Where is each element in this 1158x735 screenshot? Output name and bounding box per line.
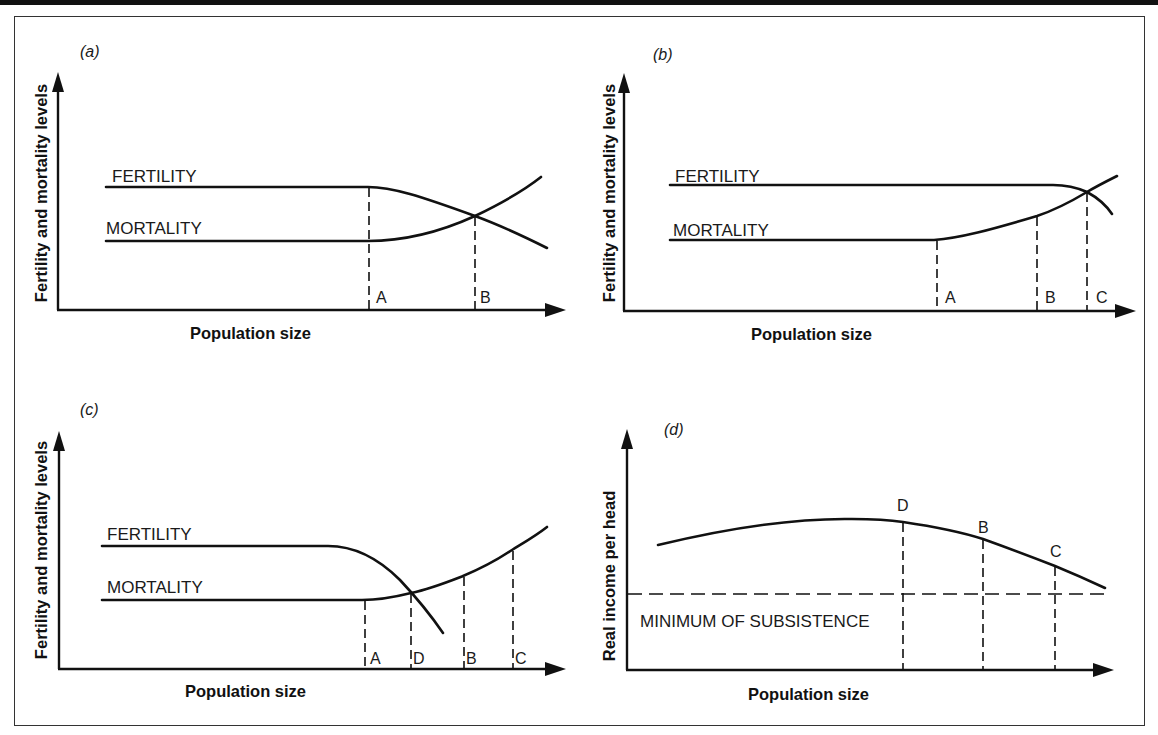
x-axis-label: Population size: [751, 325, 872, 343]
y-axis-label: Fertility and mortality levels: [32, 84, 50, 302]
x-axis-arrow-icon: [545, 303, 566, 317]
fertility-label: FERTILITY: [107, 525, 192, 544]
x-axis-arrow-icon: [1115, 304, 1136, 318]
x-axis-label: Population size: [185, 682, 306, 700]
y-axis-arrow-icon: [53, 431, 65, 451]
panel-tag: (b): [653, 46, 673, 63]
population-theory-figure: (a) Fertility and mortality levels Popul…: [0, 0, 1158, 735]
panel-c: (c) Fertility and mortality levels Popul…: [32, 401, 566, 700]
x-axis-label: Population size: [748, 685, 869, 703]
panel-b: (b) Fertility and mortality levels Popul…: [600, 46, 1136, 343]
y-axis-label: Fertility and mortality levels: [32, 441, 50, 659]
fertility-curve: [106, 187, 547, 248]
y-axis-label: Fertility and mortality levels: [600, 84, 618, 302]
x-axis-arrow-icon: [1093, 663, 1114, 677]
mortality-label: MORTALITY: [673, 221, 769, 240]
marker-label-c: C: [515, 650, 527, 667]
marker-label-d: D: [897, 497, 909, 514]
marker-label-d: D: [413, 650, 425, 667]
real-income-curve: [658, 519, 1105, 588]
y-axis-arrow-icon: [618, 73, 630, 93]
panel-d: (d) Real income per head Population size…: [600, 421, 1114, 703]
fertility-label: FERTILITY: [675, 167, 760, 186]
mortality-label: MORTALITY: [107, 578, 203, 597]
fertility-curve: [670, 185, 1112, 214]
panel-tag: (c): [80, 401, 99, 418]
x-axis-label: Population size: [190, 324, 311, 342]
marker-label-c: C: [1050, 543, 1062, 560]
mortality-label: MORTALITY: [106, 219, 202, 238]
marker-label-c: C: [1096, 289, 1108, 306]
marker-label-b: B: [1045, 289, 1056, 306]
subsistence-label: MINIMUM OF SUBSISTENCE: [640, 612, 870, 631]
marker-label-a: A: [376, 289, 387, 306]
y-axis-label: Real income per head: [600, 491, 618, 662]
panel-tag: (a): [80, 43, 100, 60]
panel-a: (a) Fertility and mortality levels Popul…: [32, 43, 566, 342]
marker-label-b: B: [466, 650, 477, 667]
marker-label-a: A: [370, 650, 381, 667]
marker-label-b: B: [978, 519, 989, 536]
y-axis-arrow-icon: [52, 72, 64, 92]
panel-tag: (d): [664, 421, 684, 438]
marker-label-b: B: [480, 289, 491, 306]
y-axis-arrow-icon: [621, 429, 633, 449]
marker-label-a: A: [945, 289, 956, 306]
fertility-label: FERTILITY: [112, 167, 197, 186]
x-axis-arrow-icon: [545, 662, 566, 676]
